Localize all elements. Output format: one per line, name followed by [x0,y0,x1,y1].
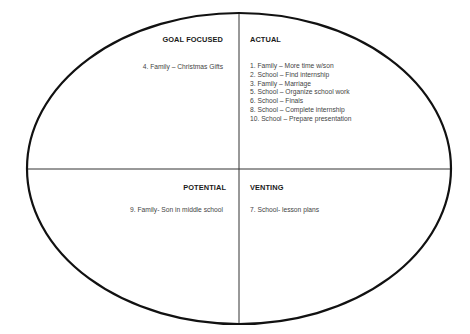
quadrant-list-potential: 9. Family- Son in middle school [130,206,223,215]
list-item: 3. Family – Marriage [250,80,352,89]
list-item: 1. Family – More time w/son [250,62,352,71]
list-item: 9. Family- Son in middle school [130,206,223,215]
quadrant-title-venting: VENTING [250,183,284,192]
list-item: 7. School- lesson plans [250,206,319,215]
list-item: 5. School – Organize school work [250,88,352,97]
list-item: 2. School – Find internship [250,71,352,80]
quadrant-title-potential: POTENTIAL [183,183,226,192]
ellipse-frame [0,0,470,334]
list-item: 8. School – Complete internship [250,106,352,115]
quadrant-title-goal-focused: GOAL FOCUSED [162,35,223,44]
list-item: 10. School – Prepare presentation [250,115,352,124]
quadrant-list-actual: 1. Family – More time w/son 2. School – … [250,62,352,124]
quadrant-list-venting: 7. School- lesson plans [250,206,319,215]
list-item: 6. School – Finals [250,97,352,106]
quadrant-ellipse-diagram: GOAL FOCUSED 4. Family – Christmas Gifts… [0,0,470,334]
quadrant-list-goal-focused: 4. Family – Christmas Gifts [143,63,223,72]
quadrant-title-actual: ACTUAL [250,35,281,44]
list-item: 4. Family – Christmas Gifts [143,63,223,72]
